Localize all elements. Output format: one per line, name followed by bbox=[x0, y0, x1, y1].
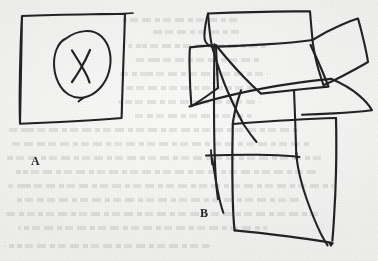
figure-b-top-panel bbox=[208, 11, 313, 46]
figure-b-stray-horizontal-stroke bbox=[206, 155, 300, 157]
figure-b-lower-panel bbox=[233, 90, 336, 124]
ink-drawing-layer bbox=[0, 0, 378, 261]
figure-a-label: A bbox=[31, 155, 40, 167]
figure-a-corner-overshoot bbox=[125, 13, 133, 14]
figure-b-lower-panel-bottom-edge bbox=[235, 230, 333, 243]
figure-b-right-tick bbox=[296, 153, 297, 160]
figure-b-lower-right-edge bbox=[332, 118, 336, 241]
figure-b-right-flap bbox=[302, 79, 372, 115]
figure-b-stray-diagonal-stroke bbox=[212, 159, 223, 213]
figure-b-group bbox=[190, 11, 373, 245]
figure-b-lower-left-stem bbox=[232, 124, 234, 230]
figure-page: A B bbox=[0, 0, 378, 261]
figure-a-group bbox=[20, 13, 133, 124]
figure-b-label: B bbox=[200, 207, 208, 219]
figure-b-upper-right-panel bbox=[313, 19, 369, 86]
